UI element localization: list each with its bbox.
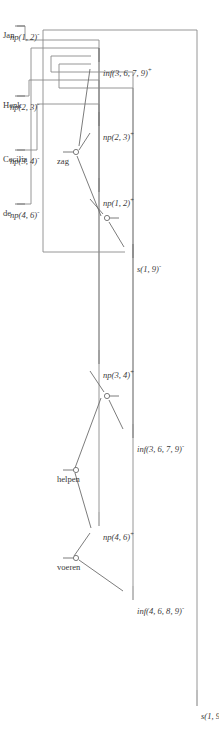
branch-inner-left (90, 371, 104, 392)
node-label-inf4689: inf(4, 6, 8, 9)- (137, 604, 184, 616)
hub-dot-helpen (73, 467, 78, 472)
figure-rotor: s(1, 9)+ inf(4, 6, 8, 9)- np(4, 6)+ inf(… (0, 0, 219, 733)
branch-zag-right (77, 156, 101, 216)
leaf-word-henk: Henk (3, 100, 22, 110)
node-text-np46lex: np(4, 6) (10, 210, 37, 220)
node-label-np46: np(4, 6)+ (103, 530, 134, 542)
branch-upper-right (109, 222, 124, 247)
leaf-word-de: de (3, 208, 11, 218)
node-label-s-root: s(1, 9)+ (201, 709, 219, 721)
node-polarity-np23lex: - (37, 100, 39, 107)
branch-inner-right (109, 400, 123, 429)
node-text-np23: np(2, 3) (103, 132, 130, 142)
axiom-wire-s (43, 30, 197, 690)
branch-helpen-left (75, 398, 101, 468)
node-label-np23: np(2, 3)+ (103, 130, 134, 142)
hub-dot-inner (104, 393, 109, 398)
node-text-s-root: s(1, 9) (201, 711, 219, 721)
hub-dot-upper (104, 215, 109, 220)
node-polarity-inf3679p: + (148, 66, 152, 73)
leaf-word-helpen: helpen (57, 474, 80, 484)
axiom-wire-np46 (17, 48, 99, 512)
node-text-inf3679n: inf(3, 6, 7, 9) (137, 444, 182, 454)
node-label-inf3679p: inf(3, 6, 7, 9)+ (103, 66, 152, 78)
hub-dot-voeren (73, 555, 78, 560)
node-polarity-np46: + (130, 530, 134, 537)
node-polarity-np12lex: - (37, 30, 39, 37)
node-polarity-np12: + (130, 196, 134, 203)
leaf-word-jan: Jan (3, 30, 14, 40)
axiom-wires (17, 26, 197, 690)
leaf-word-voeren: voeren (57, 562, 80, 572)
node-polarity-np23: + (130, 130, 134, 137)
branch-voeren-left (74, 533, 90, 556)
node-polarity-np34: + (130, 368, 134, 375)
node-label-s19n: s(1, 9)- (137, 262, 161, 274)
node-text-np12: np(1, 2) (103, 198, 130, 208)
node-text-s19n: s(1, 9) (137, 264, 159, 274)
node-polarity-np34lex: - (37, 154, 39, 161)
node-label-np12: np(1, 2)+ (103, 196, 134, 208)
node-text-np46: np(4, 6) (103, 532, 130, 542)
node-label-np46lex: np(4, 6)- (10, 208, 39, 220)
node-polarity-np46lex: - (37, 208, 39, 215)
leaf-word-cecilia: Cecilia (3, 154, 27, 164)
node-polarity-s19n: - (159, 262, 161, 269)
node-label-inf3679n: inf(3, 6, 7, 9)- (137, 442, 184, 454)
leaf-word-zag: zag (57, 156, 69, 166)
axiom-wire-np34 (17, 104, 99, 350)
node-polarity-inf4689: - (182, 604, 184, 611)
node-text-inf4689: inf(4, 6, 8, 9) (137, 606, 182, 616)
node-polarity-inf3679n: - (182, 442, 184, 449)
hub-dot-zag (73, 149, 78, 154)
node-text-np34: np(3, 4) (103, 370, 130, 380)
branch-zag-inf (79, 69, 90, 146)
logical-links (63, 69, 124, 591)
node-label-np34: np(3, 4)+ (103, 368, 134, 380)
branch-upper-left (90, 199, 103, 214)
node-text-inf3679p: inf(3, 6, 7, 9) (103, 68, 148, 78)
branch-voeren-right (79, 560, 123, 591)
figure-canvas: s(1, 9)+ inf(4, 6, 8, 9)- np(4, 6)+ inf(… (0, 0, 219, 733)
